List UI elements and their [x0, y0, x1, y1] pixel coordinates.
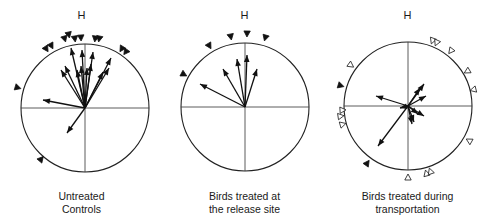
- panel-caption: Birds treated at the release site: [163, 190, 326, 216]
- open-triangle-marker-icon: [338, 113, 344, 119]
- arrowhead-icon: [417, 110, 424, 116]
- filled-triangle-marker-icon: [337, 82, 344, 88]
- caption-line: Birds treated at: [163, 190, 326, 203]
- filled-triangle-marker-icon: [205, 42, 211, 49]
- arrowhead-icon: [376, 95, 384, 100]
- open-triangle-marker-icon: [339, 122, 346, 128]
- caption-line: Birds treated during: [326, 190, 489, 203]
- arrowhead-icon: [378, 139, 384, 146]
- open-triangle-marker-icon: [466, 139, 473, 145]
- arrowhead-icon: [65, 66, 71, 74]
- filled-triangle-marker-icon: [263, 34, 269, 41]
- caption-line: Controls: [0, 203, 163, 216]
- filled-triangle-marker-icon: [180, 70, 187, 76]
- open-triangle-marker-icon: [449, 47, 455, 54]
- panel-treated-release-site: H Birds treated at the release site: [163, 0, 326, 224]
- open-triangle-marker-icon: [464, 67, 471, 73]
- caption-line: transportation: [326, 203, 489, 216]
- arrowhead-icon: [105, 58, 111, 66]
- filled-triangle-marker-icon: [244, 31, 250, 37]
- filled-triangle-marker-icon: [363, 160, 369, 167]
- open-triangle-marker-icon: [347, 61, 354, 67]
- filled-triangle-marker-icon: [14, 84, 21, 90]
- open-triangle-marker-icon: [428, 168, 434, 175]
- filled-triangle-marker-icon: [61, 35, 67, 42]
- arrowhead-icon: [67, 126, 73, 133]
- arrowhead-icon: [43, 99, 50, 105]
- arrowhead-icon: [414, 88, 420, 95]
- panel-caption: Untreated Controls: [0, 190, 163, 216]
- arrowhead-icon: [87, 64, 93, 71]
- filled-triangle-marker-icon: [227, 33, 233, 40]
- caption-line: Untreated: [0, 190, 163, 203]
- caption-line: the release site: [163, 203, 326, 216]
- arrowhead-icon: [252, 69, 257, 77]
- panel-caption: Birds treated during transportation: [326, 190, 489, 216]
- arrowhead-icon: [89, 52, 95, 59]
- panel-untreated-controls: H Untreated Controls: [0, 0, 163, 224]
- arrowhead-icon: [419, 96, 426, 102]
- open-triangle-marker-icon: [435, 39, 441, 46]
- arrowhead-icon: [235, 59, 241, 66]
- filled-triangle-marker-icon: [124, 48, 130, 55]
- open-triangle-marker-icon: [340, 107, 346, 113]
- arrowhead-icon: [200, 84, 208, 90]
- open-triangle-marker-icon: [405, 174, 411, 180]
- open-triangle-marker-icon: [470, 86, 477, 92]
- arrowhead-icon: [223, 69, 229, 76]
- arrowhead-icon: [80, 50, 86, 57]
- filled-triangle-marker-icon: [42, 45, 48, 52]
- filled-triangle-marker-icon: [97, 35, 103, 42]
- panel-treated-transportation: H Birds treated during transportation: [326, 0, 489, 224]
- filled-triangle-marker-icon: [37, 156, 43, 163]
- vector-arrow: [378, 106, 408, 146]
- filled-triangle-marker-icon: [71, 36, 77, 42]
- filled-triangle-marker-icon: [78, 35, 84, 41]
